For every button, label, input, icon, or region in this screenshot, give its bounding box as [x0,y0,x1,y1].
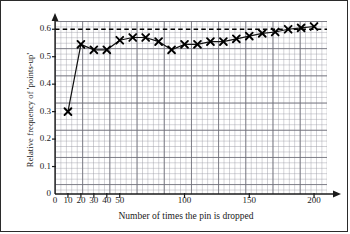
y-tick-label: 0.2 [25,134,51,143]
y-tick-label: 0.1 [25,162,51,171]
x-tick-label: 10 [63,196,72,205]
data-point-marker [155,38,162,45]
x-tick-label: 200 [307,196,321,205]
x-axis-label: Number of times the pin is dropped [41,211,331,221]
series-polyline [68,26,314,111]
x-tick-label: 50 [115,196,124,205]
y-tick-label: 0.6 [25,24,51,33]
x-tick-label: 0 [53,196,58,205]
x-tick-label: 100 [178,196,192,205]
data-series-line [55,21,327,194]
y-tick-label: 0.4 [25,79,51,88]
y-axis-tick-labels: 00.10.20.30.40.50.6 [23,1,51,233]
x-tick-label: 150 [243,196,257,205]
data-point-marker [168,46,175,53]
y-tick-label: 0 [25,189,51,198]
x-tick-label: 30 [89,196,98,205]
x-tick-label: 40 [102,196,111,205]
y-tick-label: 0.3 [25,107,51,116]
chart-figure: Relative frequency of 'points-up' 00.10.… [0,0,348,232]
x-tick-label: 20 [76,196,85,205]
y-tick-label: 0.5 [25,52,51,61]
plot-area [55,21,327,194]
